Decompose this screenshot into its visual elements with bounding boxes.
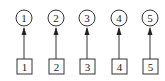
circle-label-5: 5 — [147, 12, 153, 24]
arrowhead-icon-4 — [117, 27, 122, 35]
node-group-4: 4 4 — [111, 10, 127, 74]
node-group-1: 1 1 — [16, 10, 32, 74]
node-group-5: 5 5 — [142, 10, 158, 74]
arrowhead-icon-3 — [85, 27, 90, 35]
box-label-3: 3 — [85, 61, 91, 73]
node-group-2: 2 2 — [48, 10, 64, 74]
circle-label-1: 1 — [21, 12, 27, 24]
circle-label-2: 2 — [53, 12, 59, 24]
arrowhead-icon-1 — [22, 27, 27, 35]
box-label-4: 4 — [117, 61, 123, 73]
circle-label-4: 4 — [116, 12, 122, 24]
box-label-1: 1 — [22, 61, 28, 73]
box-label-2: 2 — [54, 61, 60, 73]
box-label-5: 5 — [148, 61, 154, 73]
circle-label-3: 3 — [84, 12, 90, 24]
arrowhead-icon-5 — [148, 27, 153, 35]
diagram: 1 1 2 2 3 3 4 4 5 5 — [0, 0, 165, 81]
arrowhead-icon-2 — [54, 27, 59, 35]
node-group-3: 3 3 — [79, 10, 95, 74]
